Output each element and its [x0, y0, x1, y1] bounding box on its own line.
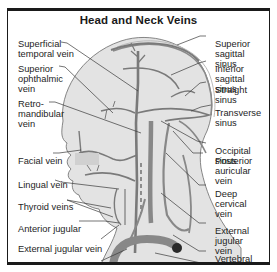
label-external-jugular-vein-right: External jugular vein — [215, 226, 269, 257]
label-superficial-temporal-vein: Superficial temporal vein — [18, 39, 74, 59]
label-external-jugular-vein-left: External jugular vein — [18, 244, 102, 254]
label-transverse-sinus: Transverse sinus — [215, 108, 269, 128]
label-bracheocephalic-vein: Bracheocephalic vein — [18, 264, 106, 265]
label-retromandibular-vein: Retro- mandibular vein — [18, 99, 64, 130]
label-straight-sinus: Straight sinus — [215, 85, 269, 105]
label-thyroid-veins: Thyroid veins — [18, 202, 73, 212]
label-facial-vein: Facial vein — [18, 156, 62, 166]
label-vertebral-vein: Vertebral vein — [215, 254, 269, 265]
label-superior-ophthalmic-vein: Superior ophthalmic vein — [18, 64, 63, 95]
diagram-frame: Head and Neck Veins — [7, 8, 270, 265]
label-lingual-vein: Lingual vein — [18, 180, 68, 190]
label-anterior-jugular: Anterior jugular — [18, 224, 81, 234]
label-posterior-auricular-vein: Posterior auricular vein — [215, 156, 269, 187]
label-deep-cervical-vein: Deep cervical vein — [215, 189, 269, 220]
